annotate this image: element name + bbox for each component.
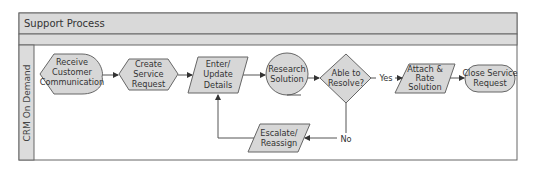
node-receive[interactable]: Receive Customer Communication	[40, 54, 105, 94]
svg-text:Request: Request	[473, 78, 507, 88]
svg-text:Resolve?: Resolve?	[328, 78, 364, 88]
svg-text:Able to: Able to	[332, 68, 361, 78]
swimlane-diagram: Support Process CRM On Demand Receive Cu…	[0, 0, 537, 170]
svg-text:Create: Create	[135, 59, 162, 69]
node-enter-update[interactable]: Enter/ Update Details	[188, 57, 248, 93]
svg-text:Reassign: Reassign	[261, 138, 298, 148]
svg-text:Escalate/: Escalate/	[260, 128, 297, 138]
svg-text:Service: Service	[133, 69, 163, 79]
svg-text:Close Service: Close Service	[462, 68, 517, 78]
yes-label: Yes	[378, 73, 392, 83]
svg-text:Customer: Customer	[52, 67, 92, 77]
svg-text:Solution: Solution	[270, 74, 303, 84]
node-close[interactable]: Close Service Request	[462, 65, 517, 92]
svg-text:Request: Request	[132, 79, 166, 89]
svg-text:Enter/: Enter/	[206, 59, 231, 69]
svg-text:Research: Research	[268, 64, 306, 74]
svg-text:Details: Details	[204, 80, 232, 90]
svg-text:Communication: Communication	[40, 77, 105, 87]
lane-label: CRM On Demand	[22, 65, 32, 142]
svg-text:Solution: Solution	[408, 82, 441, 92]
node-create[interactable]: Create Service Request	[119, 59, 178, 90]
svg-text:Update: Update	[203, 69, 233, 79]
pool-subband	[19, 34, 517, 45]
no-label: No	[340, 134, 351, 144]
node-research[interactable]: Research Solution	[266, 53, 308, 95]
svg-text:Receive: Receive	[56, 57, 88, 67]
pool-title: Support Process	[24, 18, 105, 29]
